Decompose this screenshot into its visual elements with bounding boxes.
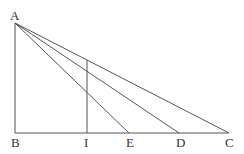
label-C: C <box>225 135 234 150</box>
label-A: A <box>10 8 20 23</box>
segment-AD <box>15 23 179 133</box>
segment-AE <box>15 23 129 133</box>
label-B: B <box>11 135 20 150</box>
label-E: E <box>126 135 134 150</box>
geometry-diagram: A B I E D C <box>0 0 244 154</box>
label-D: D <box>176 135 185 150</box>
label-I: I <box>84 135 88 150</box>
segment-AC <box>15 23 229 133</box>
